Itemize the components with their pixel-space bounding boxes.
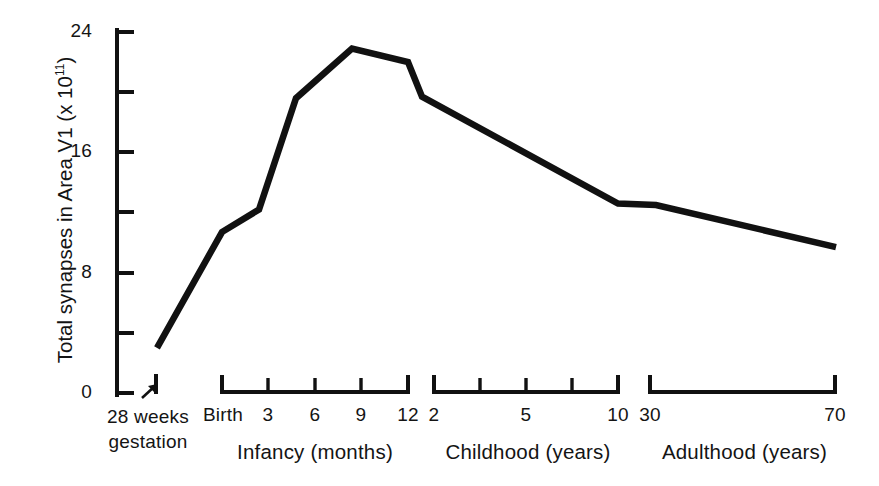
synapse-count-line — [157, 49, 836, 348]
x-axis-childhood — [434, 375, 618, 392]
x-axis-gestation — [142, 374, 157, 398]
x-axis-label-3-months: 3 — [248, 404, 288, 426]
y-axis — [117, 30, 134, 395]
x-axis-label-30-years: 30 — [630, 404, 670, 426]
y-axis-label-8: 8 — [58, 261, 92, 283]
x-axis-label-6-months: 6 — [295, 404, 335, 426]
y-axis-label-0: 0 — [58, 381, 92, 403]
synapse-density-chart: Total synapses in Area V1 (x 1011) 24 16… — [0, 0, 879, 486]
x-axis-adulthood — [650, 375, 835, 392]
segment-caption-childhood: Childhood (years) — [408, 440, 648, 464]
y-axis-title-exponent: 11 — [53, 64, 67, 76]
y-axis-title-suffix: ) — [53, 57, 76, 64]
gestation-annotation-line2: gestation — [109, 431, 188, 452]
x-axis-infancy — [222, 375, 408, 392]
x-axis-label-9-months: 9 — [341, 404, 381, 426]
segment-caption-infancy: Infancy (months) — [195, 440, 435, 464]
x-axis-label-5-years: 5 — [506, 404, 546, 426]
x-axis-label-2-years: 2 — [414, 404, 454, 426]
y-axis-label-24: 24 — [58, 20, 92, 42]
y-axis-title-prefix: Total synapses in Area V1 (x 10 — [53, 76, 76, 363]
x-axis-label-70-years: 70 — [815, 404, 855, 426]
segment-caption-adulthood: Adulthood (years) — [622, 440, 867, 464]
y-axis-label-16: 16 — [58, 140, 92, 162]
gestation-annotation-line1: 28 weeks — [107, 406, 189, 427]
y-axis-title: Total synapses in Area V1 (x 1011) — [53, 40, 77, 380]
